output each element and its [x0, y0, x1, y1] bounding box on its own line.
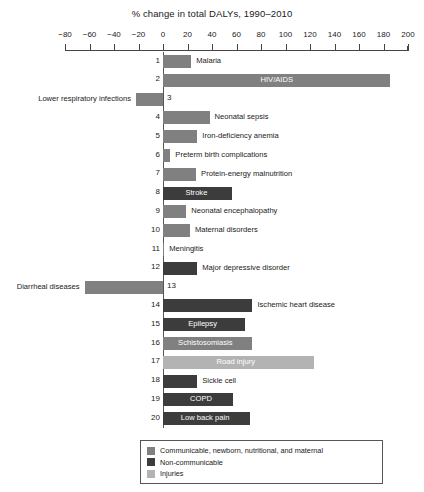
bar-label: Lower respiratory infections: [20, 94, 131, 103]
chart-row: 4Neonatal sepsis: [0, 108, 424, 127]
bar[interactable]: [163, 243, 164, 256]
x-tick-label: 20: [183, 30, 192, 39]
chart-row: 11Meningitis: [0, 240, 424, 259]
chart-row: 10Maternal disorders: [0, 221, 424, 240]
chart-row: 2HIV/AIDS: [0, 71, 424, 90]
bar-rank: 7: [138, 168, 160, 177]
x-tick: [335, 44, 336, 51]
bar-label: Preterm birth complications: [175, 150, 267, 159]
bar-rank: 15: [138, 319, 160, 328]
x-tick-label: 100: [279, 30, 292, 39]
legend-item: Communicable, newborn, nutritional, and …: [147, 445, 376, 457]
bar-rank: 19: [138, 394, 160, 403]
x-tick-label: 160: [352, 30, 365, 39]
legend: Communicable, newborn, nutritional, and …: [140, 440, 383, 484]
x-tick: [65, 44, 66, 51]
chart-row: 14Ischemic heart disease: [0, 296, 424, 315]
chart-row: 20Low back pain: [0, 409, 424, 428]
bar-label: Iron-deficiency anemia: [202, 131, 278, 140]
x-tick: [310, 44, 311, 51]
bar-label: Maternal disorders: [195, 225, 258, 234]
chart-row: 16Schistosomiasis: [0, 334, 424, 353]
chart-row: 3Lower respiratory infections: [0, 90, 424, 109]
x-tick-label: 40: [208, 30, 217, 39]
x-tick: [188, 44, 189, 51]
x-tick-label: 0: [161, 30, 165, 39]
bar-rank: 12: [138, 262, 160, 271]
x-tick: [212, 44, 213, 51]
bar-rank: 13: [167, 281, 189, 290]
chart-row: 19COPD: [0, 390, 424, 409]
chart-row: 9Neonatal encephalopathy: [0, 202, 424, 221]
bar[interactable]: [163, 205, 186, 218]
bar-label: Neonatal encephalopathy: [191, 206, 277, 215]
plot-area: 1Malaria2HIV/AIDS3Lower respiratory infe…: [0, 52, 424, 428]
chart-row: 8Stroke: [0, 184, 424, 203]
bar-rank: 16: [138, 338, 160, 347]
x-tick: [408, 44, 409, 51]
legend-label: Communicable, newborn, nutritional, and …: [160, 446, 323, 455]
bar[interactable]: [163, 224, 190, 237]
bar-rank: 1: [138, 56, 160, 65]
bar[interactable]: [85, 281, 163, 294]
bar-label: Low back pain: [181, 413, 230, 422]
chart-row: 12Major depressive disorder: [0, 259, 424, 278]
dalys-change-bar-chart: % change in total DALYs, 1990–2010 −80−6…: [0, 0, 424, 492]
x-tick: [359, 44, 360, 51]
legend-item: Non-communicable: [147, 457, 376, 469]
x-tick-label: 120: [303, 30, 316, 39]
bar[interactable]: [163, 262, 197, 275]
x-tick: [163, 44, 164, 51]
chart-row: 18Sickle cell: [0, 372, 424, 391]
bar[interactable]: [163, 375, 197, 388]
bar-label: Protein-energy malnutrition: [201, 169, 292, 178]
bar-label: Schistosomiasis: [178, 338, 232, 347]
bar-rank: 18: [138, 375, 160, 384]
bar-rank: 5: [138, 131, 160, 140]
bar-rank: 9: [138, 206, 160, 215]
legend-label: Injuries: [160, 469, 184, 478]
x-tick-label: −40: [107, 30, 121, 39]
chart-row: 17Road injury: [0, 353, 424, 372]
bar[interactable]: [163, 299, 252, 312]
x-tick-label: −20: [132, 30, 146, 39]
bar-rank: 8: [138, 187, 160, 196]
x-tick-label: 140: [328, 30, 341, 39]
x-tick-label: 180: [377, 30, 390, 39]
bar-rank: 11: [138, 244, 160, 253]
chart-row: 1Malaria: [0, 52, 424, 71]
chart-row: 13Diarrheal diseases: [0, 278, 424, 297]
bar[interactable]: [136, 93, 163, 106]
bar[interactable]: [163, 168, 196, 181]
x-tick-label: 200: [401, 30, 414, 39]
x-tick: [90, 44, 91, 51]
legend-items: Communicable, newborn, nutritional, and …: [147, 445, 376, 480]
bar-label: Diarrheal diseases: [9, 282, 80, 291]
x-tick: [384, 44, 385, 51]
x-tick: [261, 44, 262, 51]
chart-title: % change in total DALYs, 1990–2010: [0, 8, 424, 19]
bar[interactable]: [163, 55, 191, 68]
chart-row: 7Protein-energy malnutrition: [0, 165, 424, 184]
bar-rank: 10: [138, 225, 160, 234]
bar-label: Meningitis: [169, 244, 203, 253]
bar[interactable]: [163, 149, 170, 162]
legend-swatch: [147, 458, 155, 466]
bar-label: Road injury: [217, 357, 255, 366]
legend-swatch: [147, 447, 155, 455]
bar[interactable]: [163, 130, 197, 143]
x-tick-label: −80: [58, 30, 72, 39]
bar-rank: 4: [138, 112, 160, 121]
x-tick: [114, 44, 115, 51]
legend-label: Non-communicable: [160, 458, 223, 467]
chart-row: 5Iron-deficiency anemia: [0, 127, 424, 146]
x-tick: [237, 44, 238, 51]
bar[interactable]: [163, 111, 210, 124]
bar-rank: 3: [167, 93, 189, 102]
x-tick: [286, 44, 287, 51]
bar-label: Stroke: [185, 188, 207, 197]
x-tick-label: 60: [232, 30, 241, 39]
legend-swatch: [147, 470, 155, 478]
bar-label: Neonatal sepsis: [215, 112, 269, 121]
x-tick-label: 80: [257, 30, 266, 39]
